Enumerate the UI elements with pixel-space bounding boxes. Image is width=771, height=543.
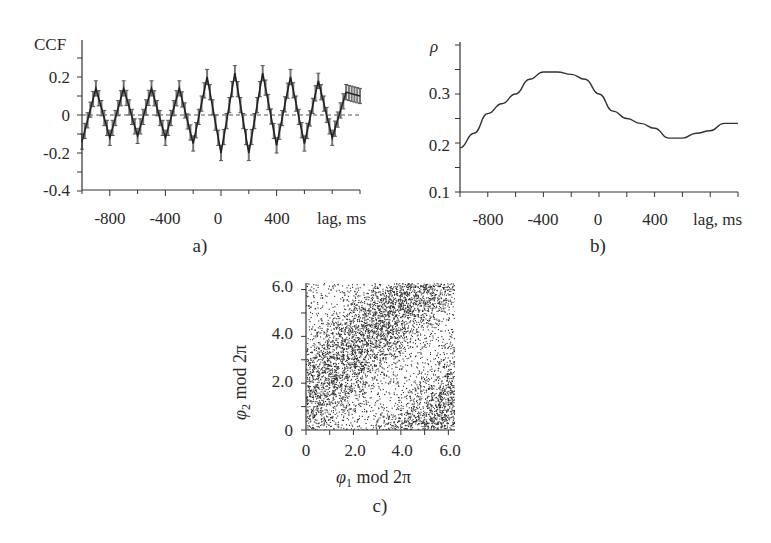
a-ytick-label: -0.2 [43, 144, 70, 163]
c-ylabel: φ2 mod 2π [230, 345, 253, 420]
c-ytick-label: 4.0 [272, 324, 293, 343]
a-xtick-label: -400 [149, 209, 180, 228]
panel-a-label: a) [193, 235, 208, 257]
c-ytick-label: 0 [285, 421, 294, 440]
phase-scatter [306, 283, 456, 431]
panel-b-label: b) [590, 235, 606, 257]
a-xtick-label: 0 [214, 209, 223, 228]
c-ytick-label: 6.0 [272, 277, 293, 296]
c-xtick-label: 6.0 [439, 441, 460, 460]
c-xlabel: φ1 mod 2π [336, 467, 411, 490]
a-ytick-label: 0 [62, 106, 71, 125]
panel-c-label: c) [373, 495, 388, 517]
b-ytick-label: 0.1 [429, 183, 450, 202]
panel-c: 6.0 4.0 2.0 0 0 2.0 4.0 6.0 φ1 mod 2π φ2… [230, 277, 461, 517]
a-ylabel: CCF [34, 35, 66, 54]
b-ylabel: ρ [429, 37, 438, 56]
c-xtick-label: 4.0 [391, 441, 412, 460]
a-ytick-label: 0.2 [49, 68, 70, 87]
b-xtick-label: -400 [527, 210, 558, 229]
b-xtick-label: -800 [472, 210, 503, 229]
ccf-plot-area [80, 66, 362, 161]
a-xtick-label: -800 [94, 209, 125, 228]
b-ticks [455, 45, 738, 197]
panel-b: ρ 0.3 0.2 0.1 -800 -400 0 400 lag, ms b) [429, 37, 742, 257]
a-xtick-label: 400 [264, 209, 290, 228]
b-xtick-label: 0 [594, 210, 603, 229]
rho-line [460, 72, 738, 148]
a-xlabel: lag, ms [317, 209, 366, 228]
b-xlabel: lag, ms [693, 210, 742, 229]
b-xtick-label: 400 [642, 210, 668, 229]
b-ytick-label: 0.2 [429, 136, 450, 155]
b-ytick-label: 0.3 [429, 84, 450, 103]
figure: CCF 0.2 0 -0.2 -0.4 -800 -400 0 400 lag,… [0, 0, 771, 543]
c-ytick-label: 2.0 [272, 372, 293, 391]
c-xtick-label: 2.0 [344, 441, 365, 460]
c-xtick-label: 0 [302, 441, 311, 460]
panel-a: CCF 0.2 0 -0.2 -0.4 -800 -400 0 400 lag,… [34, 35, 366, 257]
a-ytick-label: -0.4 [43, 181, 70, 200]
